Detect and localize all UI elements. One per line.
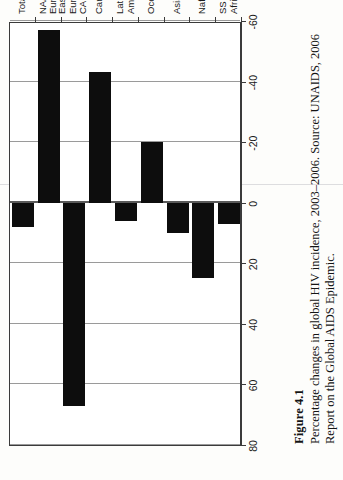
- tick-0: [241, 203, 246, 204]
- plot-area: [9, 22, 241, 446]
- figure-caption-text: Percentage changes in global HIV inciden…: [308, 32, 337, 444]
- bar-oceania: [141, 142, 163, 203]
- category-tick-1: [215, 17, 216, 22]
- category-tick-0: [241, 17, 242, 22]
- figure-caption: Figure 4.1 Percentage changes in global …: [292, 32, 337, 444]
- category-tick-5: [112, 17, 113, 22]
- bar-asia: [167, 203, 189, 233]
- gridline--60: [10, 20, 240, 21]
- category-label-latin-america: Latin America: [115, 0, 136, 14]
- bar-eastern-europe--ca: [63, 203, 85, 406]
- gridline-80: [10, 444, 240, 445]
- bar-chart: 806040200-20-40-60 SS AfricaNaf/MEAsiaOc…: [0, 0, 256, 480]
- category-tick-6: [86, 17, 87, 22]
- bar-caribbean: [89, 73, 111, 203]
- category-label-asia: Asia: [171, 0, 182, 14]
- gridline-60: [10, 383, 240, 384]
- tick-40: [241, 324, 246, 325]
- bar-na--euro: [38, 30, 60, 203]
- tick-60: [241, 384, 246, 385]
- category-label-oceania: Oceania: [146, 0, 157, 14]
- gridline-40: [10, 323, 240, 324]
- category-label-eastern-europe--ca: Eastern Europe/ CA: [58, 0, 90, 14]
- bar-latin-america: [115, 203, 137, 221]
- category-tick-8: [35, 17, 36, 22]
- category-tick-4: [138, 17, 139, 22]
- tick--20: [241, 142, 246, 143]
- tick-label--40: -40: [247, 75, 259, 90]
- bar-ss-africa: [218, 203, 240, 224]
- category-tick-7: [61, 17, 62, 22]
- tick-label-20: 20: [247, 258, 259, 270]
- tick-label--20: -20: [247, 136, 259, 151]
- category-label-naf-me: Naf/ME: [197, 0, 208, 14]
- category-tick-3: [164, 17, 165, 22]
- bar-naf-me: [192, 203, 214, 279]
- tick-label-0: 0: [247, 201, 259, 207]
- tick-80: [241, 445, 246, 446]
- value-axis-line: [241, 22, 242, 446]
- rotated-figure-stage: 806040200-20-40-60 SS AfricaNaf/MEAsiaOc…: [0, 0, 343, 480]
- category-label-total: Total: [17, 0, 28, 14]
- figure-number: Figure 4.1: [292, 32, 307, 444]
- category-label-na--euro: NA/ Euro: [37, 0, 58, 14]
- category-label-ss-africa: SS Africa: [218, 0, 239, 14]
- category-tick-2: [189, 17, 190, 22]
- tick--40: [241, 82, 246, 83]
- figure-page: 806040200-20-40-60 SS AfricaNaf/MEAsiaOc…: [0, 0, 343, 480]
- category-label-caribbean: Caribbean: [94, 0, 105, 14]
- tick-20: [241, 263, 246, 264]
- tick-label-60: 60: [247, 380, 259, 392]
- tick-label-80: 80: [247, 440, 259, 452]
- tick-label--60: -60: [247, 14, 259, 29]
- bar-total: [12, 203, 34, 227]
- tick-label-40: 40: [247, 319, 259, 331]
